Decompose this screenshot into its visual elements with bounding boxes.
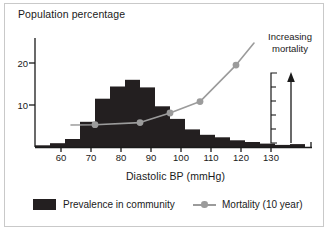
legend-label-prevalence: Prevalence in community bbox=[63, 199, 175, 210]
bar-100-105 bbox=[185, 129, 200, 147]
legend-swatch-line-marker-icon bbox=[193, 199, 216, 210]
bar-125-130 bbox=[260, 144, 275, 147]
bar-80-85 bbox=[125, 80, 140, 147]
bar-55-60 bbox=[50, 143, 65, 147]
bar-75-80 bbox=[110, 87, 125, 148]
legend-swatch-bar-icon bbox=[33, 199, 56, 210]
chart-figure: Population percentage 20 10 60 70 80 90 … bbox=[0, 0, 329, 231]
mortality-point-95 bbox=[167, 110, 174, 117]
bracket-shape bbox=[271, 73, 277, 143]
plot-area: Population percentage 20 10 60 70 80 90 … bbox=[0, 0, 329, 231]
bar-95-100 bbox=[170, 119, 185, 147]
bar-130-135 bbox=[275, 145, 290, 147]
mortality-point-70 bbox=[92, 121, 99, 128]
chart-canvas bbox=[0, 0, 329, 231]
legend-item-prevalence: Prevalence in community bbox=[33, 199, 175, 210]
up-arrow-icon bbox=[287, 72, 295, 143]
bar-85-90 bbox=[140, 87, 155, 147]
bar-115-120 bbox=[230, 140, 245, 147]
chart-legend: Prevalence in community Mortality (10 ye… bbox=[0, 199, 329, 217]
mortality-scale-bracket bbox=[271, 73, 277, 143]
mortality-point-85 bbox=[137, 119, 144, 126]
legend-item-mortality: Mortality (10 year) bbox=[193, 199, 303, 210]
bar-105-110 bbox=[200, 135, 215, 147]
mortality-point-117 bbox=[233, 62, 240, 69]
bar-120-125 bbox=[245, 142, 260, 147]
bar-135-140 bbox=[290, 144, 305, 147]
bar-110-115 bbox=[215, 137, 230, 147]
legend-label-mortality: Mortality (10 year) bbox=[222, 199, 303, 210]
mortality-point-105 bbox=[197, 98, 204, 105]
bar-60-65 bbox=[65, 139, 80, 147]
